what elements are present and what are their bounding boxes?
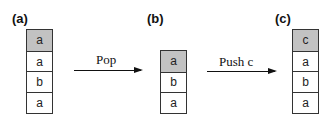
stack-c-cell-top: c	[293, 30, 318, 51]
stack-a-cell: a	[27, 92, 52, 113]
panel-label-a: (a)	[12, 12, 28, 25]
stack-c-cell: b	[293, 71, 318, 92]
stack-c-cell: a	[293, 92, 318, 113]
stack-a-cell: a	[27, 51, 52, 72]
pop-arrow	[74, 70, 141, 71]
panel-label-b: (b)	[147, 12, 164, 25]
stack-b-cell: b	[161, 72, 186, 93]
stack-a-cell-top: a	[27, 30, 52, 51]
push-operation-label: Push c	[219, 55, 253, 68]
stack-b: a b a	[160, 50, 187, 114]
arrow-right-icon	[268, 68, 277, 74]
stack-c-cell: a	[293, 51, 318, 72]
panel-label-c: (c)	[275, 12, 291, 25]
stack-b-cell-top: a	[161, 51, 186, 72]
pop-operation-label: Pop	[96, 53, 116, 66]
arrow-right-icon	[134, 67, 143, 73]
stack-b-cell: a	[161, 92, 186, 113]
stack-c: c a b a	[292, 29, 319, 114]
push-arrow	[207, 71, 275, 72]
stack-a: a a b a	[26, 29, 53, 114]
stack-a-cell: b	[27, 71, 52, 92]
